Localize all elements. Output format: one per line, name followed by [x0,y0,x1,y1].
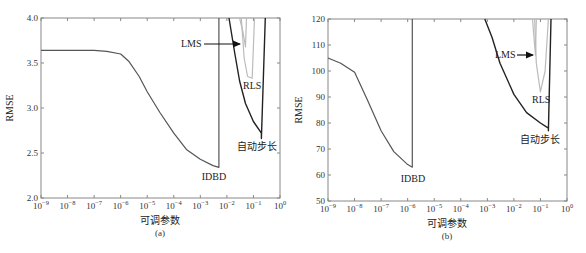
y-tick-label: 70 [316,144,326,154]
y-tick-label: 120 [312,14,326,24]
x-tick-label: 10−7 [86,199,103,211]
label-idbd-a: IDBD [202,171,226,182]
x-tick-label: 10−3 [192,199,208,211]
x-tick-label: 10−8 [60,199,76,211]
series-line-idbd [328,19,412,167]
series-lines-b [328,19,551,167]
series-lines-a [41,18,265,167]
y-tick-label: 3.5 [27,58,39,68]
x-tick-label: 10−4 [166,199,183,211]
x-axis-title-a: 可调参数 [140,214,180,226]
label-lms-b: LMS [495,49,516,60]
axis-ticks-a: 10−910−810−710−610−510−410−310−210−11002… [27,13,286,211]
x-tick-label: 10−6 [400,202,417,214]
label-rls-b: RLS [532,94,550,105]
x-tick-label: 10−1 [532,202,548,214]
x-tick-label: 10−2 [506,202,522,214]
x-tick-label: 100 [561,202,573,214]
y-tick-label: 110 [312,40,326,50]
x-tick-label: 10−2 [219,199,235,211]
chart-panel-b: 10−910−810−710−610−510−410−310−210−11005… [293,14,573,241]
label-auto-b: 自动步长 [520,133,560,145]
series-line-auto-step [229,18,265,139]
y-tick-label: 100 [312,66,326,76]
x-tick-label: 10−5 [139,199,155,211]
x-tick-label: 10−4 [453,202,470,214]
y-tick-label: 80 [316,118,326,128]
y-tick-label: 4.0 [27,13,39,23]
panel-caption-b: (b) [442,231,453,241]
x-tick-label: 10−8 [347,202,363,214]
x-tick-label: 100 [274,199,286,211]
y-axis-title-a: RMSE [4,94,15,121]
x-tick-label: 10−6 [113,199,130,211]
label-auto-a: 自动步长 [237,140,277,152]
plot-frame-b [328,19,567,201]
y-tick-label: 60 [316,170,326,180]
series-line-rls [535,19,549,92]
label-lms-a: LMS [181,38,202,49]
y-tick-label: 3.0 [27,103,39,113]
series-line-auto-step [485,19,551,131]
label-rls-a: RLS [243,80,261,91]
plot-frame-a [41,18,280,198]
y-tick-label: 50 [316,196,326,206]
x-tick-label: 10−3 [479,202,495,214]
y-axis-title-b: RMSE [293,96,304,123]
series-line-rls [241,18,254,78]
y-tick-label: 2.5 [27,148,39,158]
label-idbd-b: IDBD [401,173,425,184]
y-tick-label: 90 [316,92,326,102]
x-tick-label: 10−7 [373,202,390,214]
x-axis-title-b: 可调参数 [427,217,467,229]
figure-canvas: 10−910−810−710−610−510−410−310−210−11002… [0,0,586,253]
panel-caption-a: (a) [155,228,165,238]
x-tick-label: 10−1 [245,199,261,211]
axis-ticks-b: 10−910−810−710−610−510−410−310−210−11005… [312,14,574,214]
y-tick-label: 2.0 [27,193,39,203]
chart-panel-a: 10−910−810−710−610−510−410−310−210−11002… [4,13,286,238]
x-tick-label: 10−5 [426,202,442,214]
